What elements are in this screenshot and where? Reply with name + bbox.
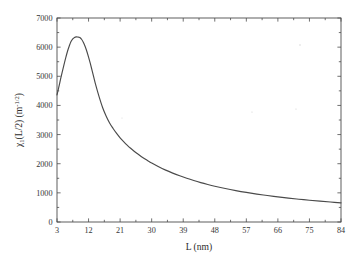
x-tick-label: 57 <box>242 226 250 235</box>
x-tick-label: 48 <box>211 226 219 235</box>
x-tick-label: 3 <box>55 226 59 235</box>
x-tick-label: 30 <box>148 226 156 235</box>
y-tick-label: 3000 <box>36 131 52 140</box>
y-tick-label: 6000 <box>36 43 52 52</box>
x-tick-label: 39 <box>179 226 187 235</box>
x-tick-label: 75 <box>305 226 313 235</box>
x-tick-label: 66 <box>274 226 282 235</box>
y-tick-label: 4000 <box>36 101 52 110</box>
y-axis-title-argument: (L/2) (m <box>13 106 25 139</box>
x-tick-label: 21 <box>116 226 124 235</box>
y-tick-label: 2000 <box>36 160 52 169</box>
y-axis-title-tail: ) <box>13 93 25 96</box>
scan-speck <box>295 108 296 109</box>
x-axis-title: L (nm) <box>186 241 213 253</box>
y-tick-label: 7000 <box>36 14 52 23</box>
chi1-vs-length-line-chart: 3122130394857667584010002000300040005000… <box>0 0 361 265</box>
plot-area-background <box>57 18 341 222</box>
x-tick-label: 84 <box>337 226 345 235</box>
y-tick-label: 5000 <box>36 72 52 81</box>
y-tick-label: 0 <box>48 218 52 227</box>
scan-speck <box>251 111 252 112</box>
y-tick-label: 1000 <box>36 189 52 198</box>
chart-figure: 3122130394857667584010002000300040005000… <box>0 0 361 265</box>
scan-speck <box>122 118 123 119</box>
scan-speck <box>299 44 300 45</box>
y-axis-title-superscript: -1/2 <box>13 96 20 107</box>
x-tick-label: 12 <box>84 226 92 235</box>
